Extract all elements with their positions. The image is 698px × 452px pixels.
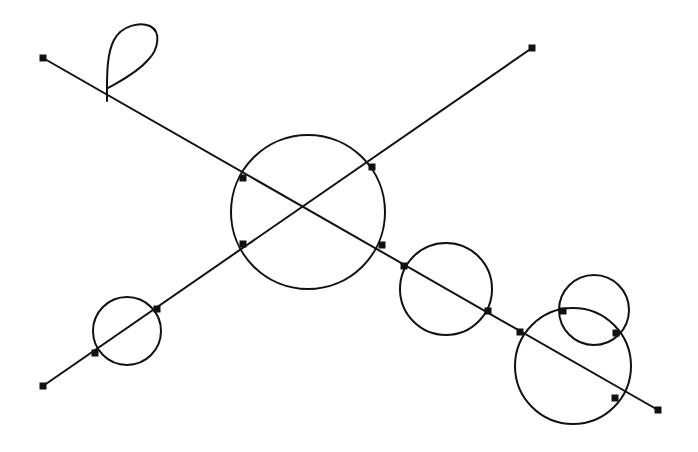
loop-group (107, 24, 157, 101)
circles-group (93, 135, 631, 424)
line-b (43, 48, 532, 386)
control-point-marker[interactable] (655, 407, 662, 414)
lines-group (43, 48, 658, 410)
control-point-marker[interactable] (154, 306, 161, 313)
control-point-marker[interactable] (40, 383, 47, 390)
circle-center (231, 135, 385, 289)
circle-left-small (93, 297, 161, 365)
control-point-marker[interactable] (369, 164, 376, 171)
loop-top-left (107, 24, 157, 101)
control-point-marker[interactable] (401, 263, 408, 270)
control-point-marker[interactable] (485, 308, 492, 315)
control-point-marker[interactable] (612, 395, 619, 402)
line-a (43, 58, 658, 410)
control-point-marker[interactable] (613, 330, 620, 337)
control-point-marker[interactable] (40, 55, 47, 62)
control-point-marker[interactable] (517, 329, 524, 336)
control-point-marker[interactable] (240, 175, 247, 182)
control-point-marker[interactable] (240, 241, 247, 248)
control-point-marker[interactable] (379, 242, 386, 249)
circle-right-large (515, 308, 631, 424)
control-point-marker[interactable] (92, 350, 99, 357)
control-point-marker[interactable] (529, 45, 536, 52)
diagram-canvas (0, 0, 698, 452)
control-point-marker[interactable] (560, 308, 567, 315)
geometry-diagram (0, 0, 698, 452)
